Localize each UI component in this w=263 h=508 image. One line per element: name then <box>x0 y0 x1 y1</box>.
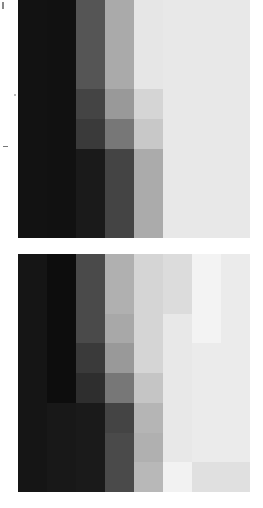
heatmap-cell <box>105 433 134 463</box>
heatmap-cell <box>192 343 221 373</box>
heatmap-cell <box>221 343 250 373</box>
heatmap-cell <box>105 208 134 238</box>
heatmap-cell <box>105 403 134 433</box>
heatmap-cell <box>163 179 192 209</box>
heatmap-cell <box>47 30 76 60</box>
heatmap-cell <box>192 254 221 284</box>
heatmap-cell <box>47 0 76 30</box>
heatmap-cell <box>47 462 76 492</box>
heatmap-cell <box>76 179 105 209</box>
heatmap-cell <box>76 89 105 119</box>
heatmap-cell <box>134 149 163 179</box>
heatmap-bottom <box>18 254 250 492</box>
heatmap-cell <box>18 462 47 492</box>
heatmap-cell <box>76 149 105 179</box>
heatmap-cell <box>47 149 76 179</box>
heatmap-cell <box>163 30 192 60</box>
heatmap-cell <box>192 60 221 90</box>
heatmap-cell <box>47 208 76 238</box>
heatmap-cell <box>192 208 221 238</box>
heatmap-cell <box>134 462 163 492</box>
heatmap-cell <box>163 60 192 90</box>
axis-tick-mark <box>2 2 4 9</box>
heatmap-cell <box>192 149 221 179</box>
heatmap-cell <box>76 373 105 403</box>
heatmap-cell <box>134 373 163 403</box>
heatmap-cell <box>76 254 105 284</box>
heatmap-cell <box>134 208 163 238</box>
heatmap-cell <box>163 462 192 492</box>
heatmap-cell <box>163 208 192 238</box>
heatmap-cell <box>76 343 105 373</box>
heatmap-cell <box>192 462 221 492</box>
heatmap-cell <box>18 284 47 314</box>
heatmap-cell <box>134 0 163 30</box>
heatmap-cell <box>18 403 47 433</box>
heatmap-cell <box>18 254 47 284</box>
axis-tick-mark <box>3 146 8 147</box>
heatmap-cell <box>105 149 134 179</box>
heatmap-cell <box>221 373 250 403</box>
heatmap-cell <box>105 343 134 373</box>
heatmap-cell <box>134 343 163 373</box>
heatmap-cell <box>192 89 221 119</box>
heatmap-cell <box>47 343 76 373</box>
heatmap-cell <box>134 403 163 433</box>
heatmap-cell <box>163 373 192 403</box>
heatmap-cell <box>163 0 192 30</box>
heatmap-cell <box>134 30 163 60</box>
heatmap-cell <box>221 149 250 179</box>
heatmap-cell <box>76 119 105 149</box>
heatmap-cell <box>192 179 221 209</box>
heatmap-cell <box>76 0 105 30</box>
heatmap-cell <box>221 179 250 209</box>
heatmap-top <box>18 0 250 238</box>
heatmap-cell <box>47 179 76 209</box>
heatmap-cell <box>105 462 134 492</box>
heatmap-cell <box>18 0 47 30</box>
heatmap-cell <box>76 30 105 60</box>
heatmap-cell <box>192 403 221 433</box>
heatmap-cell <box>76 462 105 492</box>
heatmap-cell <box>105 119 134 149</box>
heatmap-cell <box>134 89 163 119</box>
heatmap-cell <box>105 314 134 344</box>
heatmap-cell <box>221 30 250 60</box>
heatmap-cell <box>134 254 163 284</box>
heatmap-cell <box>134 60 163 90</box>
heatmap-cell <box>163 149 192 179</box>
heatmap-cell <box>105 254 134 284</box>
heatmap-cell <box>221 60 250 90</box>
heatmap-cell <box>105 30 134 60</box>
heatmap-cell <box>76 433 105 463</box>
heatmap-cell <box>221 284 250 314</box>
heatmap-cell <box>221 89 250 119</box>
heatmap-cell <box>163 314 192 344</box>
heatmap-cell <box>18 89 47 119</box>
heatmap-cell <box>134 314 163 344</box>
heatmap-cell <box>134 119 163 149</box>
heatmap-cell <box>221 254 250 284</box>
heatmap-cell <box>134 179 163 209</box>
heatmap-cell <box>47 403 76 433</box>
heatmap-cell <box>18 179 47 209</box>
heatmap-cell <box>192 119 221 149</box>
heatmap-cell <box>221 119 250 149</box>
heatmap-cell <box>76 284 105 314</box>
heatmap-cell <box>18 149 47 179</box>
heatmap-cell <box>163 254 192 284</box>
heatmap-cell <box>163 284 192 314</box>
heatmap-cell <box>18 208 47 238</box>
heatmap-cell <box>192 433 221 463</box>
heatmap-cell <box>18 119 47 149</box>
heatmap-cell <box>47 119 76 149</box>
heatmap-cell <box>47 284 76 314</box>
heatmap-cell <box>221 314 250 344</box>
heatmap-cell <box>47 314 76 344</box>
heatmap-cell <box>163 119 192 149</box>
heatmap-cell <box>105 0 134 30</box>
heatmap-cell <box>192 314 221 344</box>
heatmap-cell <box>47 89 76 119</box>
heatmap-cell <box>105 60 134 90</box>
heatmap-cell <box>105 284 134 314</box>
